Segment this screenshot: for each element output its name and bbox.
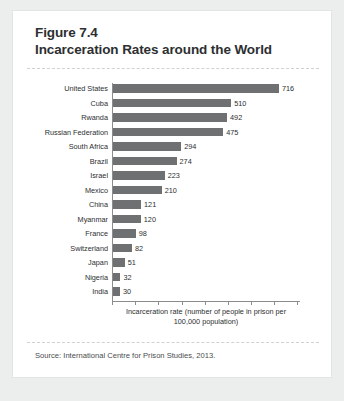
x-axis-label: Incarceration rate (number of people in … (112, 307, 300, 327)
bar (113, 84, 279, 93)
bar-value-label: 274 (180, 156, 192, 168)
category-label: Russian Federation (13, 127, 108, 139)
bar (113, 128, 223, 137)
bar-value-label: 82 (135, 243, 143, 255)
bar-row: Myanmar120 (13, 214, 333, 226)
bar-row: Russian Federation475 (13, 127, 333, 139)
bar (113, 200, 141, 209)
bar-value-label: 98 (139, 228, 147, 240)
category-label: Japan (13, 257, 108, 269)
category-label: India (13, 286, 108, 298)
bar (113, 258, 125, 267)
x-axis-tick (297, 301, 298, 305)
figure-number: Figure 7.4 (35, 25, 315, 42)
figure-card: Figure 7.4 Incarceration Rates around th… (12, 10, 332, 378)
bar (113, 186, 162, 195)
bar-value-label: 121 (144, 199, 156, 211)
category-label: Rwanda (13, 112, 108, 124)
x-axis-tick (228, 301, 229, 305)
bar-row: Cuba510 (13, 98, 333, 110)
bar (113, 113, 227, 122)
category-label: Myanmar (13, 214, 108, 226)
bar (113, 157, 177, 166)
bar-row: Brazil274 (13, 156, 333, 168)
x-axis-tick (182, 301, 183, 305)
category-label: Nigeria (13, 272, 108, 284)
x-axis-tick (251, 301, 252, 305)
category-label: Israel (13, 170, 108, 182)
x-axis-tick (112, 301, 113, 305)
category-label: France (13, 228, 108, 240)
bar (113, 142, 181, 151)
category-label: United States (13, 83, 108, 95)
bar-row: Switzerland82 (13, 243, 333, 255)
source-note: Source: International Centre for Prison … (35, 351, 215, 360)
bar-chart: United States716Cuba510Rwanda492Russian … (13, 81, 333, 326)
bar-value-label: 294 (184, 141, 196, 153)
figure-title: Incarceration Rates around the World (35, 42, 315, 59)
category-label: Cuba (13, 98, 108, 110)
bar-row: South Africa294 (13, 141, 333, 153)
bar-row: Mexico210 (13, 185, 333, 197)
x-axis-tick (135, 301, 136, 305)
bar-value-label: 492 (230, 112, 242, 124)
bar-value-label: 51 (128, 257, 136, 269)
x-axis-tick (205, 301, 206, 305)
bar (113, 229, 136, 238)
x-axis-line (112, 301, 300, 302)
bar-row: Rwanda492 (13, 112, 333, 124)
bar-row: France98 (13, 228, 333, 240)
category-label: Mexico (13, 185, 108, 197)
divider-top (27, 68, 319, 69)
category-label: Switzerland (13, 243, 108, 255)
bar-row: Japan51 (13, 257, 333, 269)
bar-value-label: 475 (226, 127, 238, 139)
bar-row: China121 (13, 199, 333, 211)
figure-title-block: Figure 7.4 Incarceration Rates around th… (35, 25, 315, 58)
divider-bottom (27, 342, 319, 343)
bar-row: India30 (13, 286, 333, 298)
bar-row: Nigeria32 (13, 272, 333, 284)
bar-row: Israel223 (13, 170, 333, 182)
category-label: Brazil (13, 156, 108, 168)
category-label: South Africa (13, 141, 108, 153)
bar-value-label: 510 (234, 98, 246, 110)
bar (113, 99, 231, 108)
bar-value-label: 716 (282, 83, 294, 95)
bar-value-label: 223 (168, 170, 180, 182)
bar-value-label: 32 (123, 272, 131, 284)
x-axis-tick (158, 301, 159, 305)
bar (113, 244, 132, 253)
bar-value-label: 210 (165, 185, 177, 197)
bar (113, 287, 120, 296)
category-label: China (13, 199, 108, 211)
bar-row: United States716 (13, 83, 333, 95)
x-axis-tick (274, 301, 275, 305)
bar-value-label: 120 (144, 214, 156, 226)
bar (113, 171, 165, 180)
bar-value-label: 30 (123, 286, 131, 298)
bar (113, 273, 120, 282)
bar (113, 215, 141, 224)
